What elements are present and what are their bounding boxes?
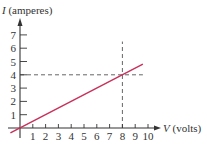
- y-tick-label: 4: [11, 69, 17, 81]
- y-tick-label: 1: [11, 109, 17, 121]
- chart: 123456789101234567 I (amperes) V (volts): [0, 0, 207, 144]
- x-axis-arrow-icon: [154, 126, 161, 131]
- x-tick-label: 8: [120, 130, 126, 142]
- y-tick-label: 6: [11, 42, 17, 54]
- x-axis-unit: (volts): [170, 122, 202, 135]
- x-tick-label: 4: [68, 130, 74, 142]
- y-tick-label: 5: [11, 56, 17, 68]
- y-axis-unit: (amperes): [6, 4, 53, 17]
- x-tick-label: 9: [132, 130, 138, 142]
- x-axis-title: V (volts): [163, 122, 202, 135]
- y-axis-arrow-icon: [18, 18, 23, 26]
- x-tick-label: 7: [107, 130, 113, 142]
- y-axis-title: I (amperes): [1, 4, 53, 17]
- y-tick-label: 7: [11, 29, 17, 41]
- x-tick-label: 2: [43, 130, 49, 142]
- x-tick-label: 6: [94, 130, 100, 142]
- y-tick-label: 2: [11, 95, 17, 107]
- x-tick-label: 1: [30, 130, 36, 142]
- x-tick-label: 10: [143, 130, 155, 142]
- x-tick-label: 3: [56, 130, 62, 142]
- x-tick-label: 5: [81, 130, 87, 142]
- y-tick-label: 3: [11, 82, 17, 94]
